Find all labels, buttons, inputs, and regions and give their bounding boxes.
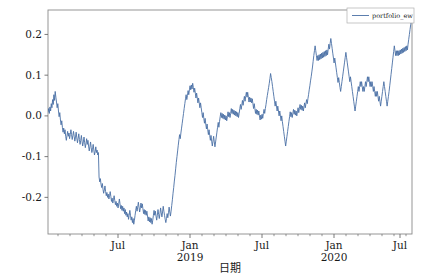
- x-tick-label: Jan: [324, 239, 342, 251]
- legend[interactable]: portfolio_ew: [347, 8, 414, 23]
- x-tick-year-label: 2020: [321, 251, 348, 263]
- x-tick-label: Jul: [254, 239, 270, 251]
- x-tick-label: Jul: [110, 239, 126, 251]
- y-tick-label: 0.0: [25, 109, 42, 121]
- x-axis-label: 日期: [219, 262, 241, 275]
- plot-frame: [48, 10, 412, 234]
- x-tick-label: Jan: [180, 239, 198, 251]
- y-tick-label: -0.1: [22, 150, 42, 162]
- plot-canvas: 0.20.10.0-0.1-0.2 JulJan2019JulJan2020Ju…: [0, 0, 424, 280]
- chart-figure: 累计收益率 0.20.10.0-0.1-0.2 JulJan2019JulJan…: [0, 0, 424, 280]
- legend-label-0: portfolio_ew: [372, 12, 413, 20]
- y-tick-label: -0.2: [22, 191, 42, 203]
- y-tick-label: 0.2: [25, 28, 42, 40]
- y-tick-label: 0.1: [25, 69, 42, 81]
- x-tick-label: Jul: [392, 239, 408, 251]
- x-tick-year-label: 2019: [177, 251, 204, 263]
